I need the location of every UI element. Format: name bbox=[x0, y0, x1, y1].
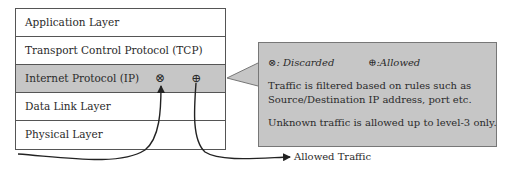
allowed-traffic-label: Allowed Traffic bbox=[294, 151, 371, 162]
callout-pointer bbox=[227, 63, 258, 86]
incoming-traffic-arrow bbox=[18, 86, 161, 160]
legend-allowed: ⊕:Allowed bbox=[368, 57, 420, 68]
callout-line-2: Source/Destination IP address, port etc. bbox=[268, 93, 472, 107]
filter-callout: ⊗: Discarded ⊕:Allowed Traffic is filter… bbox=[258, 42, 497, 147]
callout-rules-text: Traffic is filtered based on rules such … bbox=[268, 79, 472, 107]
callout-line-3: Unknown traffic is allowed up to level-3… bbox=[268, 117, 497, 128]
legend-discarded: ⊗: Discarded bbox=[268, 57, 334, 68]
callout-line-1: Traffic is filtered based on rules such … bbox=[268, 79, 472, 93]
callout-legend: ⊗: Discarded ⊕:Allowed bbox=[268, 57, 334, 68]
